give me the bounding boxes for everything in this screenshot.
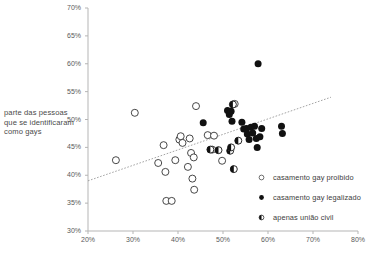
x-axis-tick-label: 80%	[343, 236, 373, 243]
data-point	[211, 132, 218, 139]
data-point	[160, 142, 167, 149]
chart-legend: casamento gay proibido casamento gay leg…	[258, 167, 374, 227]
hollow-circle-icon	[258, 174, 265, 181]
data-point	[251, 123, 258, 130]
data-point	[238, 119, 245, 126]
x-axis-tick-label: 50%	[208, 236, 238, 243]
data-point	[112, 157, 119, 164]
data-point	[278, 123, 285, 130]
y-axis-tick-label: 70%	[55, 4, 81, 11]
data-point	[258, 125, 265, 132]
data-point	[219, 157, 226, 164]
x-axis-tick-label: 70%	[298, 236, 328, 243]
data-point	[193, 103, 200, 110]
data-point	[229, 118, 236, 125]
data-point	[177, 133, 184, 140]
data-point	[155, 159, 162, 166]
data-point	[200, 119, 207, 126]
legend-item-legalizado[interactable]: casamento gay legalizado	[258, 187, 374, 207]
half-filled-circle-icon	[258, 214, 265, 221]
data-point	[228, 108, 235, 115]
scatter-chart: parte das pessoas que se identificaram c…	[0, 0, 375, 256]
data-point	[172, 157, 179, 164]
legend-item-proibido[interactable]: casamento gay proibido	[258, 167, 374, 187]
data-point	[254, 144, 261, 151]
y-axis-tick-label: 45%	[55, 143, 81, 150]
data-point	[256, 133, 263, 140]
data-point	[246, 136, 253, 143]
y-axis-tick-label: 55%	[55, 88, 81, 95]
y-axis-tick-label: 60%	[55, 60, 81, 67]
data-point	[162, 168, 169, 175]
data-point	[131, 109, 138, 116]
legend-label-legalizado: casamento gay legalizado	[273, 193, 361, 202]
data-point	[168, 197, 175, 204]
x-axis-tick-label: 40%	[163, 236, 193, 243]
y-axis-tick-label: 65%	[55, 32, 81, 39]
filled-circle-icon	[258, 194, 265, 201]
y-axis-tick-label: 30%	[55, 227, 81, 234]
data-point	[179, 139, 186, 146]
data-point	[184, 163, 191, 170]
x-axis-tick-label: 30%	[118, 236, 148, 243]
data-point	[186, 135, 193, 142]
y-axis-tick-label: 50%	[55, 116, 81, 123]
legend-item-uniao-civil[interactable]: apenas união civil	[258, 207, 374, 227]
legend-label-proibido: casamento gay proibido	[273, 173, 354, 182]
x-axis-tick-label: 20%	[73, 236, 103, 243]
data-point	[190, 154, 197, 161]
data-point	[189, 175, 196, 182]
x-axis-tick-label: 60%	[253, 236, 283, 243]
legend-label-uniao-civil: apenas união civil	[273, 213, 334, 222]
y-axis-tick-label: 35%	[55, 199, 81, 206]
data-point	[279, 130, 286, 137]
data-point	[255, 60, 262, 67]
data-point	[191, 186, 198, 193]
y-axis-tick-label: 40%	[55, 171, 81, 178]
